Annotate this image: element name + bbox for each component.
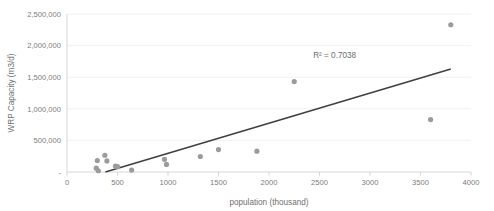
x-tick-label-1000: 1000 — [160, 178, 177, 187]
data-point — [96, 168, 101, 173]
chart-canvas: -500,0001,000,0001,500,0002,000,0002,500… — [0, 0, 494, 211]
x-tick-label-500: 500 — [111, 178, 124, 187]
data-point — [198, 154, 203, 159]
x-tick-label-0: 0 — [65, 178, 69, 187]
x-axis-title: population (thousand) — [229, 198, 308, 207]
data-point — [254, 149, 259, 154]
y-tick-label-2000000: 2,000,000 — [27, 41, 61, 50]
y-tick-label-2500000: 2,500,000 — [27, 10, 61, 19]
y-tick-label-1500000: 1,500,000 — [27, 73, 61, 82]
x-tick-label-4000: 4000 — [463, 178, 480, 187]
x-tick-label-3000: 3000 — [362, 178, 379, 187]
scatter-chart: -500,0001,000,0001,500,0002,000,0002,500… — [0, 0, 494, 211]
y-tick-label-500000: 500,000 — [34, 136, 61, 145]
data-point — [115, 164, 120, 169]
data-point — [164, 162, 169, 167]
data-point — [448, 22, 453, 27]
trendline — [105, 69, 450, 172]
r-squared-label: R² = 0.7038 — [313, 51, 356, 60]
data-point — [428, 117, 433, 122]
data-point — [129, 168, 134, 173]
x-tick-label-3500: 3500 — [412, 178, 429, 187]
x-tick-label-2500: 2500 — [311, 178, 328, 187]
data-point — [95, 158, 100, 163]
data-point — [102, 153, 107, 158]
x-tick-label-1500: 1500 — [210, 178, 227, 187]
x-tick-label-2000: 2000 — [261, 178, 278, 187]
y-axis-title: WRP Capacity (m3/d) — [7, 53, 16, 132]
y-tick-label-1000000: 1,000,000 — [27, 105, 61, 114]
data-point — [292, 79, 297, 84]
y-tick-label-0: - — [58, 168, 61, 177]
data-point — [216, 147, 221, 152]
data-point — [104, 158, 109, 163]
data-point — [162, 157, 167, 162]
